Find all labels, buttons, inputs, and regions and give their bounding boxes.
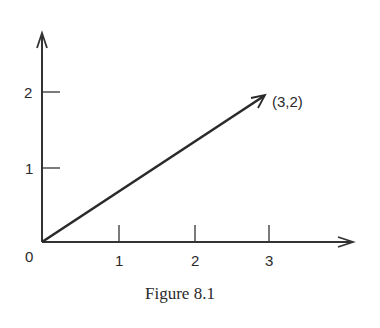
x-tick-label-3: 3 <box>265 252 273 269</box>
x-tick-label-2: 2 <box>191 252 199 269</box>
y-tick-label-2: 2 <box>24 84 32 101</box>
vector-line <box>42 96 264 242</box>
vector-diagram: 2 1 0 1 2 3 (3,2) Figure 8.1 <box>0 0 380 328</box>
point-label: (3,2) <box>272 93 303 110</box>
y-tick-label-1: 1 <box>25 160 33 177</box>
figure-caption: Figure 8.1 <box>145 284 215 303</box>
x-tick-label-1: 1 <box>115 252 123 269</box>
origin-label: 0 <box>25 248 33 265</box>
